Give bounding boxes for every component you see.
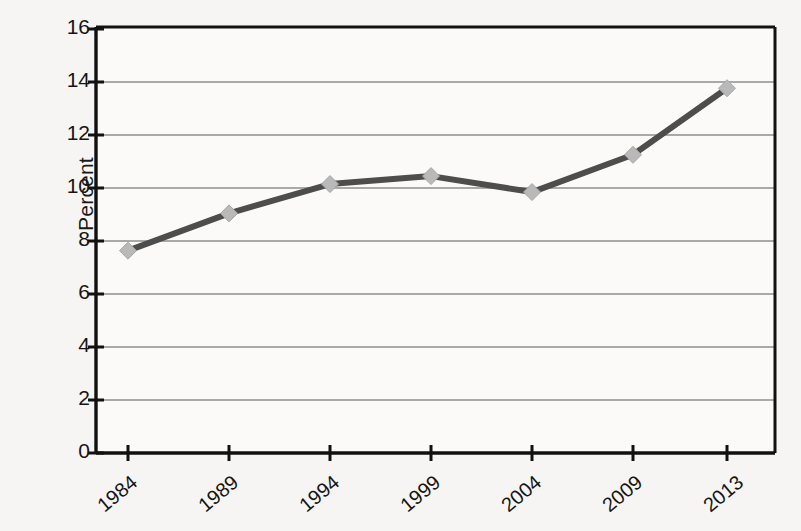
plot-area [0,0,801,531]
plot-background [96,27,775,453]
line-chart: Percent 0 2 4 6 8 10 12 14 16 1984 1989 … [0,0,801,531]
